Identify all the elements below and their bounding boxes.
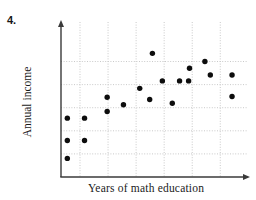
data-point — [121, 102, 126, 107]
gridlines — [61, 22, 248, 177]
data-point — [65, 156, 70, 161]
data-point — [186, 78, 191, 83]
plot-canvas — [0, 0, 256, 200]
x-axis-arrowhead — [243, 174, 250, 180]
data-point — [187, 66, 192, 71]
data-point — [82, 138, 87, 143]
scatter-plot-figure: 4. Annual income Years of math education — [0, 0, 256, 200]
axes — [58, 20, 250, 180]
data-point — [104, 109, 109, 114]
question-number: 4. — [7, 14, 16, 26]
y-axis-arrowhead — [58, 20, 64, 27]
data-point — [147, 97, 152, 102]
data-point — [170, 101, 175, 106]
data-point — [65, 138, 70, 143]
data-point — [208, 72, 213, 77]
data-point — [104, 95, 109, 100]
data-point — [177, 78, 182, 83]
data-point — [229, 72, 234, 77]
data-point — [160, 78, 165, 83]
x-axis-label: Years of math education — [88, 182, 204, 194]
data-point — [82, 115, 87, 120]
y-axis-label: Annual income — [21, 47, 33, 157]
data-point — [202, 59, 207, 64]
data-point — [137, 86, 142, 91]
data-point — [150, 51, 155, 56]
data-point — [65, 115, 70, 120]
data-point — [229, 94, 234, 99]
data-points — [65, 51, 235, 161]
